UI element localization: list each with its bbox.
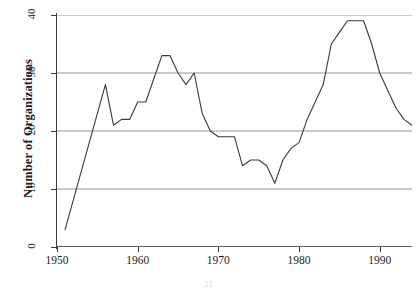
gridlines — [57, 15, 412, 247]
x-tick-mark — [380, 247, 381, 252]
x-tick-label: 1970 — [191, 254, 245, 266]
y-tick-label: 30 — [25, 55, 37, 89]
x-tick-mark — [218, 247, 219, 252]
x-tick-label: 1950 — [30, 254, 84, 266]
x-tick-label: 1980 — [272, 254, 326, 266]
line-chart-svg — [57, 15, 412, 247]
x-tick-mark — [299, 247, 300, 252]
y-tick-label: 40 — [25, 0, 37, 31]
x-tick-mark — [57, 247, 58, 252]
figure: Number of Organizations 010203040 195019… — [0, 0, 417, 294]
page-number: 21 — [0, 279, 417, 289]
y-tick-mark — [51, 73, 57, 74]
y-tick-mark — [51, 131, 57, 132]
x-tick-label: 1990 — [353, 254, 407, 266]
y-tick-mark — [51, 189, 57, 190]
data-line — [65, 21, 412, 230]
x-tick-mark — [138, 247, 139, 252]
x-tick-label: 1960 — [111, 254, 165, 266]
y-tick-mark — [51, 15, 57, 16]
y-tick-label: 20 — [25, 113, 37, 147]
plot-area — [57, 15, 412, 247]
y-tick-label: 10 — [25, 171, 37, 205]
